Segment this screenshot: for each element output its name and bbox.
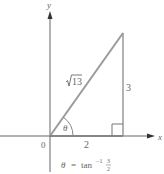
y-axis-arrow-icon	[48, 11, 53, 19]
right-angle-marker	[112, 124, 123, 136]
x-axis-label: x	[157, 132, 162, 142]
svg-text:=: =	[71, 160, 76, 170]
x-axis-arrow-icon	[147, 134, 155, 139]
svg-text:θ: θ	[61, 160, 66, 170]
svg-text:13: 13	[72, 76, 82, 87]
svg-text:2: 2	[107, 166, 110, 172]
opposite-label: 3	[126, 82, 131, 93]
angle-theta-label: θ	[63, 123, 68, 133]
svg-text:tan: tan	[81, 160, 92, 170]
hypotenuse	[50, 33, 123, 136]
origin-label: 0	[41, 140, 46, 150]
svg-text:−1: −1	[96, 158, 102, 164]
inverse-tangent-diagram: x y 0 θ 13 3 2 θ = tan −1 3 2	[0, 0, 164, 174]
hypotenuse-label: 13	[66, 75, 82, 87]
adjacent-label: 2	[84, 139, 89, 150]
y-axis-label: y	[46, 0, 51, 10]
svg-text:3: 3	[107, 158, 110, 164]
caption-formula: θ = tan −1 3 2	[61, 158, 111, 172]
